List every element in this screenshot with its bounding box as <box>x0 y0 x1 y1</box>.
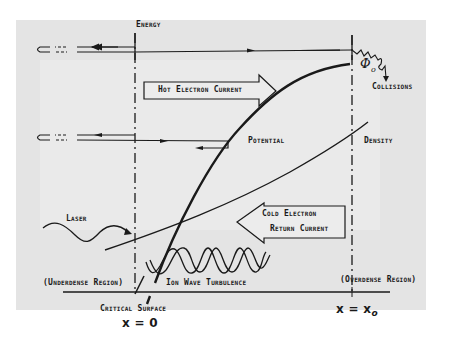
potential-curve <box>147 64 350 304</box>
energy-label: Energy <box>136 20 161 29</box>
x-equals-zero-label: x = 0 <box>122 316 158 330</box>
overdense-region-label: (Overdense Region) <box>340 275 416 284</box>
energy-electron-path <box>38 47 353 52</box>
phi-o-label: Φo <box>360 56 376 74</box>
phi-symbol: Φ <box>360 56 371 71</box>
diagram-graphics <box>0 0 453 342</box>
potential-label: Potential <box>248 136 284 145</box>
phi-subscript: o <box>371 65 376 74</box>
laser-wave <box>43 223 128 241</box>
density-label: Density <box>364 136 393 145</box>
underdense-region-label: (Underdense Region) <box>43 278 123 287</box>
reflected-electron-path <box>38 135 229 148</box>
cold-electron-label-line1: Cold Electron <box>262 209 316 218</box>
x-equals-xo-label: x = xo <box>336 302 378 318</box>
laser-label: Laser <box>66 214 87 223</box>
critical-surface-label: Critical Surface <box>100 304 166 313</box>
x-equals-x-text: x = x <box>336 302 371 316</box>
collisions-label: Collisions <box>372 82 412 91</box>
diagram-canvas: Energy Hot Electron Current Φo Collision… <box>0 0 453 342</box>
hot-electron-current-label: Hot Electron Current <box>158 85 242 94</box>
ion-wave-turbulence-label: Ion Wave Turbulence <box>166 278 246 287</box>
cold-electron-label-line2: Return Current <box>270 224 328 233</box>
xo-subscript: o <box>371 308 377 318</box>
